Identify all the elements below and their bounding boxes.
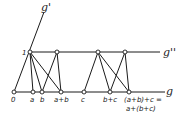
- label-a-plus-b: a+b: [54, 96, 69, 104]
- point-unit: [28, 50, 32, 54]
- segment-p2-to-result: [98, 52, 129, 92]
- associativity-diagram: g' g'' g 1 0 a b a+b c b+c (a+b)+c = a+(…: [0, 0, 181, 125]
- segment-p1-to-b: [42, 52, 57, 92]
- segment-1-to-a-plus-b: [30, 52, 61, 92]
- point-upper-2: [96, 50, 100, 54]
- segment-p3-to-b-plus-c: [110, 52, 125, 92]
- point-result: [127, 90, 131, 94]
- label-b-plus-c: b+c: [103, 96, 117, 104]
- point-a: [31, 90, 35, 94]
- label-b: b: [40, 96, 45, 104]
- label-g-prime: g': [41, 1, 51, 14]
- point-upper-1: [55, 50, 59, 54]
- point-upper-3: [123, 50, 127, 54]
- point-origin: [12, 90, 16, 94]
- label-g-double-prime: g'': [163, 46, 176, 59]
- label-unit: 1: [22, 49, 26, 57]
- segment-p3-to-result: [125, 52, 129, 92]
- segment-p1-to-a-plus-b: [57, 52, 61, 92]
- point-b-plus-c: [108, 90, 112, 94]
- label-result-line1: (a+b)+c =: [124, 96, 162, 104]
- label-c: c: [81, 96, 85, 104]
- segment-p2-to-b-plus-c: [98, 52, 110, 92]
- segment-p2-to-c: [84, 52, 98, 92]
- label-origin: 0: [11, 96, 16, 104]
- label-g: g: [166, 85, 173, 98]
- label-a: a: [30, 96, 34, 104]
- point-c: [82, 90, 86, 94]
- point-b: [40, 90, 44, 94]
- label-result-line2: a+(b+c): [126, 105, 156, 113]
- point-a-plus-b: [59, 90, 63, 94]
